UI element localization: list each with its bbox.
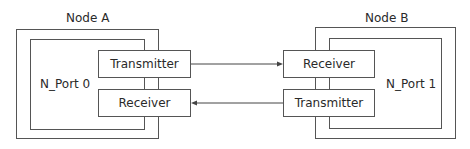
link-arrows: [0, 0, 470, 149]
link-b-to-a: [191, 101, 283, 106]
arrowhead-left-icon: [191, 101, 197, 106]
link-a-to-b: [191, 62, 283, 67]
arrowhead-right-icon: [277, 62, 283, 67]
